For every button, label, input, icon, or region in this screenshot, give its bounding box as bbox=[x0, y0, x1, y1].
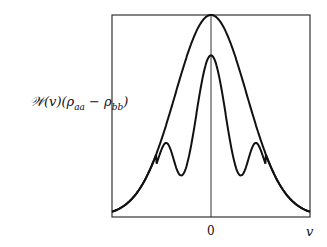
chart-plot bbox=[0, 0, 327, 247]
x-axis-label: v bbox=[306, 224, 313, 239]
y-axis-label: 𝒲(v)(ρaa − ρbb) bbox=[30, 94, 128, 112]
x-tick-zero: 0 bbox=[207, 224, 215, 238]
